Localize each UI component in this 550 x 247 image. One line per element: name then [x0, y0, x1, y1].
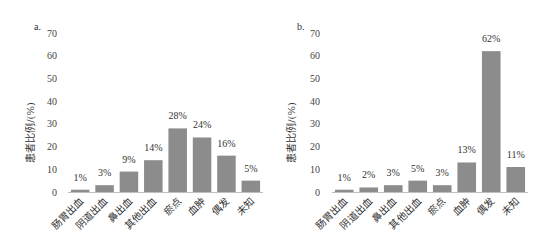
- y-tick-label: 40: [310, 96, 320, 107]
- x-tick-label: 瘀点: [160, 195, 183, 218]
- y-tick-label: 20: [310, 141, 320, 152]
- data-label: 5%: [244, 163, 257, 174]
- chart-a: a.010203040506070患者比例/(%)1%肠胃出血3%阴道出血9%鼻…: [0, 0, 275, 247]
- y-tick-label: 50: [310, 73, 320, 84]
- y-tick-label: 60: [47, 50, 57, 61]
- data-label: 5%: [411, 163, 424, 174]
- panel-label: b.: [297, 21, 305, 32]
- y-tick-label: 40: [47, 96, 57, 107]
- bar: [242, 181, 261, 192]
- data-label: 28%: [169, 110, 187, 121]
- y-tick-label: 10: [47, 164, 57, 175]
- bar: [335, 190, 354, 192]
- y-tick-label: 20: [47, 141, 57, 152]
- bar: [217, 156, 236, 192]
- data-label: 24%: [193, 119, 211, 130]
- bar: [193, 137, 212, 192]
- bar: [120, 172, 139, 192]
- data-label: 9%: [122, 154, 135, 165]
- bar: [433, 185, 452, 192]
- x-tick-label: 血肿: [450, 195, 473, 218]
- data-label: 3%: [387, 167, 400, 178]
- data-label: 1%: [74, 172, 87, 183]
- y-tick-label: 70: [310, 28, 320, 39]
- y-axis-label: 患者比例/(%): [285, 102, 297, 163]
- data-label: 11%: [507, 149, 525, 160]
- data-label: 2%: [362, 169, 375, 180]
- bar: [359, 187, 378, 192]
- data-label: 16%: [217, 138, 235, 149]
- bar: [71, 190, 90, 192]
- data-label: 13%: [458, 144, 476, 155]
- y-tick-label: 10: [310, 164, 320, 175]
- x-tick-label: 血肿: [185, 195, 208, 218]
- y-tick-label: 70: [47, 28, 57, 39]
- x-tick-label: 未知: [234, 195, 257, 218]
- y-axis-label: 患者比例/(%): [24, 102, 36, 163]
- bar: [144, 160, 163, 192]
- bar: [457, 162, 476, 192]
- data-label: 14%: [144, 142, 162, 153]
- bar: [95, 185, 114, 192]
- bar: [506, 167, 525, 192]
- y-tick-label: 0: [52, 187, 57, 198]
- y-tick-label: 30: [47, 118, 57, 129]
- bar: [482, 51, 501, 192]
- y-tick-label: 0: [315, 187, 320, 198]
- data-label: 3%: [436, 167, 449, 178]
- y-tick-label: 60: [310, 50, 320, 61]
- x-tick-label: 未知: [499, 195, 522, 218]
- y-tick-label: 30: [310, 118, 320, 129]
- data-label: 1%: [338, 172, 351, 183]
- bar: [408, 181, 427, 192]
- bar: [168, 128, 187, 192]
- bar: [384, 185, 403, 192]
- data-label: 62%: [482, 33, 500, 44]
- x-tick-label: 偶发: [209, 195, 232, 218]
- y-tick-label: 50: [47, 73, 57, 84]
- chart-b: b.010203040506070患者比例/(%)1%肠胃出血2%阴道出血3%鼻…: [275, 0, 550, 247]
- x-tick-label: 瘀点: [425, 195, 448, 218]
- data-label: 3%: [98, 167, 111, 178]
- panel-label: a.: [34, 21, 41, 32]
- x-tick-label: 偶发: [474, 195, 497, 218]
